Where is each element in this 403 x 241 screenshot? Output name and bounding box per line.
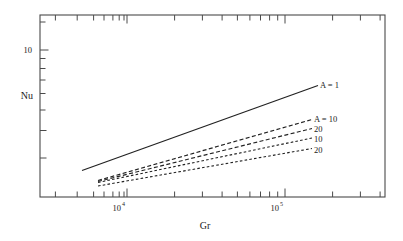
series-a-equals-1 — [82, 86, 318, 171]
y-axis-ticks — [40, 22, 49, 158]
series-20-upper — [98, 129, 312, 182]
series-a-equals-10-upper — [98, 120, 312, 181]
x-tick-mantissa-1e5: 10 — [271, 203, 280, 213]
x-tick-exponent-1e5: 5 — [280, 201, 283, 207]
y-tick-label-10: 10 — [24, 45, 33, 55]
series-label-20-upper: 20 — [314, 124, 323, 134]
x-tick-label-1e5: 10 5 — [271, 201, 284, 213]
x-tick-mantissa-1e4: 10 — [113, 203, 122, 213]
x-axis-title: Gr — [200, 220, 211, 231]
y-axis-title: Nu — [21, 90, 33, 101]
x-axis-ticks-top — [55, 15, 380, 24]
x-axis-ticks-bottom — [55, 189, 380, 198]
x-tick-label-1e4: 10 4 — [113, 201, 126, 213]
series-10-lower — [98, 138, 312, 183]
chart-figure: A = 1 A = 10 20 10 20 10 Nu 10 4 10 5 Gr — [0, 0, 403, 241]
series-label-a-10-upper: A = 10 — [314, 114, 337, 124]
series-20-lower — [98, 149, 312, 187]
series-label-a-1: A = 1 — [320, 80, 339, 90]
x-tick-exponent-1e4: 4 — [122, 201, 125, 207]
chart-svg: A = 1 A = 10 20 10 20 10 Nu 10 4 10 5 Gr — [0, 0, 403, 241]
series-label-20-lower: 20 — [314, 145, 323, 155]
plot-frame — [40, 15, 385, 197]
series-label-10-lower: 10 — [314, 134, 323, 144]
